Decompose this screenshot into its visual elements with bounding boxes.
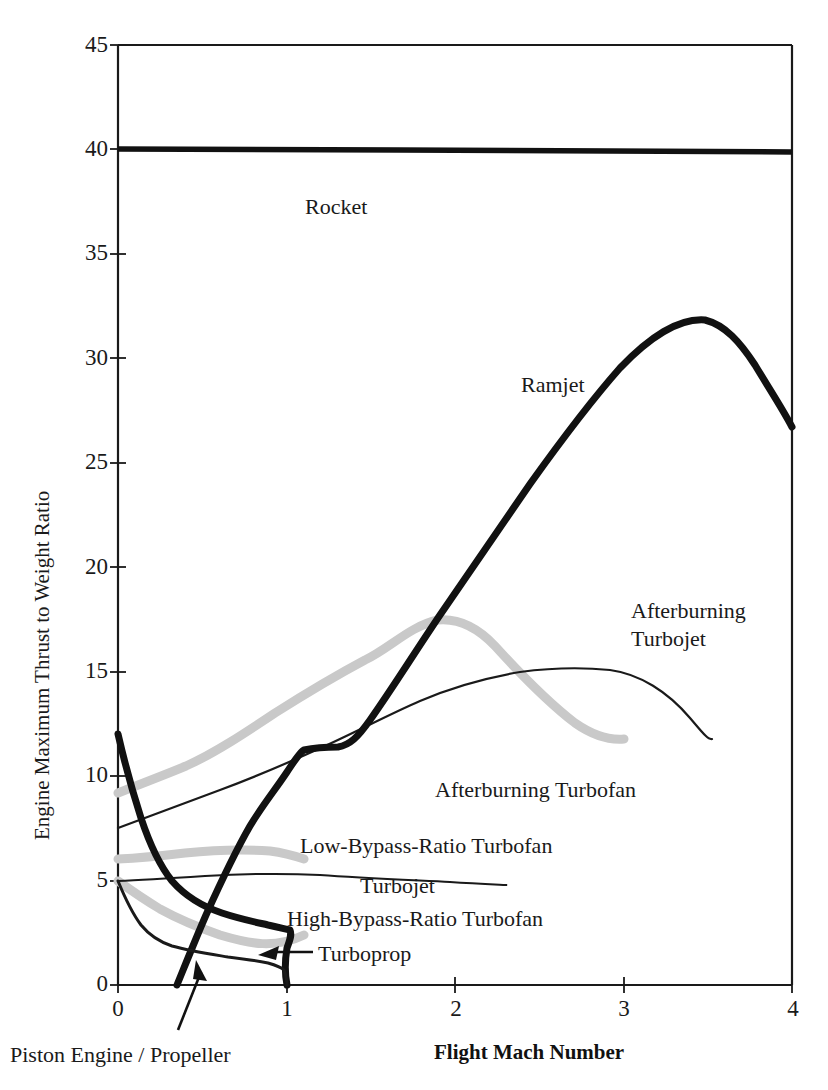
- series-path-low-bypass-ratio-turbofan: [118, 850, 304, 859]
- series-path-afterburning-turbojet: [118, 668, 712, 828]
- plot-frame: [118, 45, 792, 985]
- chart-canvas: [0, 0, 828, 1090]
- series-path-ramjet: [177, 320, 792, 985]
- series-path-afterburning-turbofan: [118, 620, 624, 793]
- series-path-rocket: [118, 149, 792, 152]
- chart-page: 45 40 35 30 25 20 15 10 5 0 0 1 2 3 4 Fl…: [0, 0, 828, 1090]
